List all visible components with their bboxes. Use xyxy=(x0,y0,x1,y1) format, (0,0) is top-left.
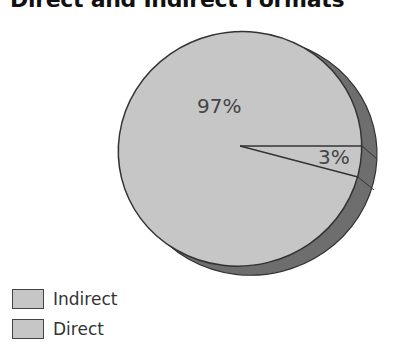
legend-label: Direct xyxy=(53,319,104,339)
legend-label: Indirect xyxy=(53,289,117,309)
legend-item-direct: Direct xyxy=(12,314,117,344)
legend-item-indirect: Indirect xyxy=(12,284,117,314)
legend-swatch-indirect xyxy=(12,289,44,309)
legend: Indirect Direct xyxy=(12,284,117,344)
label-direct-pct: 3% xyxy=(318,145,350,169)
label-indirect-pct: 97% xyxy=(197,94,241,118)
legend-swatch-direct xyxy=(12,319,44,339)
